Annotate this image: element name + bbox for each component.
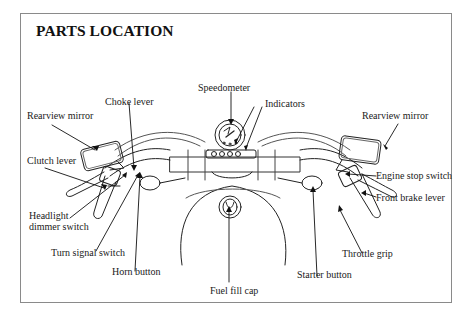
fuel-fill-cap-drawing bbox=[219, 196, 241, 218]
label-choke-lever: Choke lever bbox=[105, 96, 154, 108]
label-throttle-grip: Throttle grip bbox=[342, 248, 393, 260]
label-rearview-mirror-left: Rearview mirror bbox=[27, 110, 93, 122]
handlebar-clamp-drawing bbox=[140, 150, 322, 190]
label-clutch-lever: Clutch lever bbox=[27, 155, 76, 167]
label-horn-button: Horn button bbox=[112, 266, 161, 278]
speedometer-drawing bbox=[215, 120, 245, 150]
arrowheads bbox=[92, 119, 388, 212]
label-indicators: Indicators bbox=[265, 98, 305, 110]
label-speedometer: Speedometer bbox=[198, 82, 250, 94]
fuel-tank-drawing bbox=[181, 186, 286, 265]
label-starter-button: Starter button bbox=[297, 269, 352, 281]
label-headlight-dimmer-switch-line2: dimmer switch bbox=[29, 221, 89, 233]
label-engine-stop-switch: Engine stop switch bbox=[376, 170, 452, 182]
label-turn-signal-switch: Turn signal switch bbox=[51, 247, 125, 259]
label-front-brake-lever: Front brake lever bbox=[376, 192, 445, 204]
label-rearview-mirror-right: Rearview mirror bbox=[362, 110, 428, 122]
label-fuel-fill-cap: Fuel fill cap bbox=[210, 285, 258, 297]
